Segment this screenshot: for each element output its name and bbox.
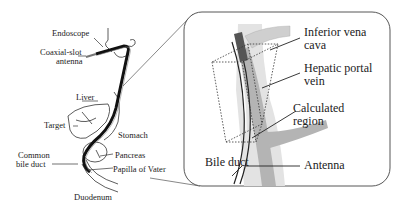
label-target: Target [44,120,66,130]
label-pancreas: Pancreas [115,150,145,160]
zoom-line-top [123,14,193,86]
figure: Endoscope Coaxial-slot antenna Liver Tar… [0,0,409,210]
label-region-line1: Calculated [293,101,344,115]
label-antenna: Antenna [304,158,345,172]
label-stomach: Stomach [118,130,148,140]
label-endoscope: Endoscope [52,28,90,38]
label-hpv-line2: vein [304,74,325,88]
label-ivc-line1: Inferior vena [304,25,367,39]
label-duodenum: Duodenum [74,192,112,202]
label-ivc-line2: cava [304,38,327,52]
label-hpv-line1: Hepatic portal [304,61,373,75]
label-bile-duct: Bile duct [205,155,249,169]
coaxial-slot-antenna [86,54,96,57]
label-papilla: Papilla of Vater [113,164,166,174]
label-liver: Liver [76,92,95,102]
label-cbd-line2: bile duct [16,159,46,169]
label-antenna-line2: antenna [56,56,83,66]
label-region-line2: region [293,114,324,128]
diagram-canvas: Endoscope Coaxial-slot antenna Liver Tar… [0,0,409,210]
